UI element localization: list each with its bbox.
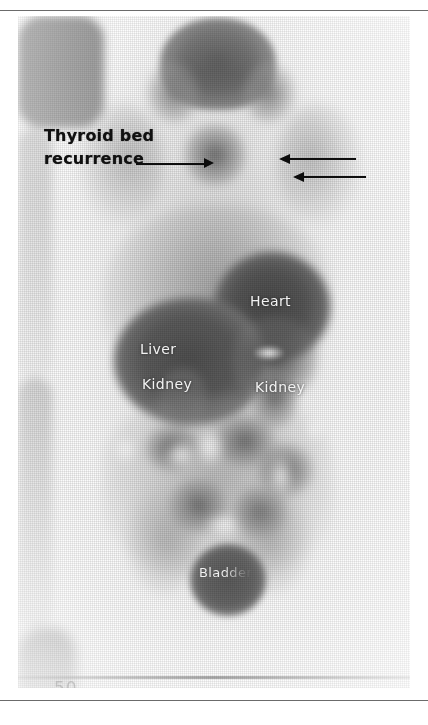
page-rule-bottom-divider — [0, 700, 428, 701]
whole-body-scan-image: Thyroid bed recurrence Heart Liver Kidne… — [18, 16, 410, 688]
marker-arrow-1-head-icon — [279, 154, 290, 164]
organ-label-kidney-left: Kidney — [142, 376, 192, 392]
annotation-overlay: Thyroid bed recurrence Heart Liver Kidne… — [18, 16, 410, 688]
marker-arrow-1-line — [290, 158, 356, 160]
marker-arrow-2-line — [304, 176, 366, 178]
organ-label-heart: Heart — [250, 293, 291, 309]
figure-container: Thyroid bed recurrence Heart Liver Kidne… — [0, 0, 428, 725]
scan-scale-marker: 50 — [54, 678, 78, 688]
organ-label-bladder: Bladder — [199, 565, 252, 580]
page-rule-top-divider — [0, 10, 428, 11]
organ-label-liver: Liver — [140, 341, 176, 357]
callout-leader-line — [136, 163, 208, 165]
organ-label-kidney-right: Kidney — [255, 379, 305, 395]
callout-arrowhead-icon — [204, 158, 214, 168]
marker-arrow-2-head-icon — [293, 172, 304, 182]
